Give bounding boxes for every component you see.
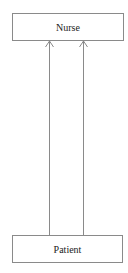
edges-layer — [0, 0, 128, 273]
edge-patient-nurse-1 — [46, 41, 54, 235]
edge-patient-nurse-2 — [80, 41, 88, 235]
